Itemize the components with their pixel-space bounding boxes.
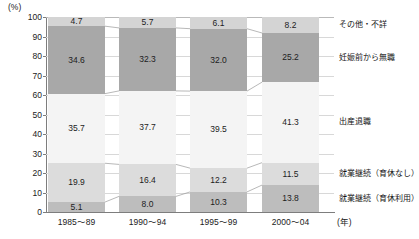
bar-segment: 35.7 (48, 94, 105, 164)
bar-segment-value-label: 11.5 (283, 170, 299, 179)
x-axis-tick-label: 2000～04 (272, 215, 309, 227)
bar-segment: 16.4 (119, 164, 176, 196)
x-axis-tick-label: 1990～94 (129, 215, 166, 227)
bar-segment-value-label: 10.3 (210, 198, 227, 207)
bar-segment: 10.3 (190, 192, 247, 212)
connector-line (247, 82, 262, 91)
bar-segment: 5.1 (48, 202, 105, 212)
legend-item: その他・不詳 (339, 21, 387, 30)
bar-segment: 13.8 (262, 185, 319, 212)
y-axis-tick-label: 30 (2, 149, 42, 159)
connector-line (105, 91, 119, 94)
x-axis-line (46, 212, 335, 213)
bar-segment-value-label: 6.1 (213, 19, 225, 28)
legend: その他・不詳妊娠前から無職出産退職就業継続（育休なし）就業継続（育休利用） (339, 0, 411, 239)
bar-segment: 19.9 (48, 163, 105, 202)
y-axis-tick-label: 60 (2, 90, 42, 100)
bar-group: 8.016.437.732.35.7 (119, 17, 176, 212)
connector-line (247, 185, 262, 192)
bar-segment: 37.7 (119, 91, 176, 165)
bar-segment: 11.5 (262, 163, 319, 185)
bar-segment: 12.2 (190, 168, 247, 192)
bar-segment: 39.5 (190, 91, 247, 168)
connector-line (105, 163, 119, 164)
bar-group: 5.119.935.734.64.7 (48, 17, 105, 212)
connector-line (176, 28, 190, 29)
y-axis-tick-label: 80 (2, 51, 42, 61)
bar-segment-value-label: 16.4 (139, 176, 156, 185)
bar-segment-value-label: 41.3 (282, 118, 299, 127)
x-axis-tick-label: 1985～89 (58, 215, 95, 227)
bar-segment: 41.3 (262, 82, 319, 163)
bar-segment-value-label: 5.1 (71, 203, 83, 212)
y-axis-tick-label: 40 (2, 129, 42, 139)
y-axis-tick-label: 90 (2, 32, 42, 42)
legend-item: 就業継続（育休利用） (339, 194, 419, 203)
bar-segment: 32.3 (119, 28, 176, 91)
x-axis-tick-label: 1995～99 (200, 215, 237, 227)
bar-segment: 4.7 (48, 17, 105, 26)
bar-segment: 32.0 (190, 29, 247, 91)
plot-area: 5.119.935.734.64.78.016.437.732.35.710.3… (46, 17, 334, 212)
y-axis-tick-label: 0 (2, 207, 42, 217)
bar-segment-value-label: 32.3 (139, 55, 156, 64)
connector-line (105, 26, 119, 28)
bar-segment-value-label: 5.7 (142, 18, 154, 27)
legend-item: 妊娠前から無職 (339, 53, 395, 62)
connector-line (176, 164, 190, 168)
y-axis-unit-label: (%) (8, 2, 21, 12)
y-axis-tick-label: 50 (2, 110, 42, 120)
y-axis-tick-label: 10 (2, 188, 42, 198)
y-axis-tick-label: 70 (2, 71, 42, 81)
bar-segment-value-label: 34.6 (68, 56, 85, 65)
bar-segment-value-label: 39.5 (210, 125, 227, 134)
bar-segment-value-label: 32.0 (210, 56, 227, 65)
bar-segment-value-label: 8.0 (142, 200, 154, 209)
bar-segment: 25.2 (262, 33, 319, 82)
y-axis-tick-label: 20 (2, 168, 42, 178)
bar-segment-value-label: 8.2 (285, 21, 297, 30)
legend-item: 出産退職 (339, 118, 371, 127)
bar-group: 10.312.239.532.06.1 (190, 17, 247, 212)
bar-segment-value-label: 35.7 (68, 124, 85, 133)
bar-segment-value-label: 4.7 (71, 17, 83, 26)
bar-segment-value-label: 19.9 (68, 178, 85, 187)
connector-line (105, 196, 119, 202)
connector-line (247, 29, 262, 33)
y-axis-tick-label: 100 (2, 12, 42, 22)
connector-line (247, 163, 262, 168)
bar-group: 13.811.541.325.28.2 (262, 17, 319, 212)
bar-segment-value-label: 25.2 (282, 53, 299, 62)
legend-item: 就業継続（育休なし） (339, 169, 419, 178)
y-axis-tick-labels: 1009080706050403020100 (0, 17, 42, 212)
bar-segment-value-label: 37.7 (139, 123, 156, 132)
bar-segment: 34.6 (48, 26, 105, 93)
bar-segment: 8.0 (119, 196, 176, 212)
bar-segment-value-label: 12.2 (210, 176, 227, 185)
bar-segment: 8.2 (262, 17, 319, 33)
bar-segment: 5.7 (119, 17, 176, 28)
bar-segment: 6.1 (190, 17, 247, 29)
bar-segment-value-label: 13.8 (282, 194, 299, 203)
